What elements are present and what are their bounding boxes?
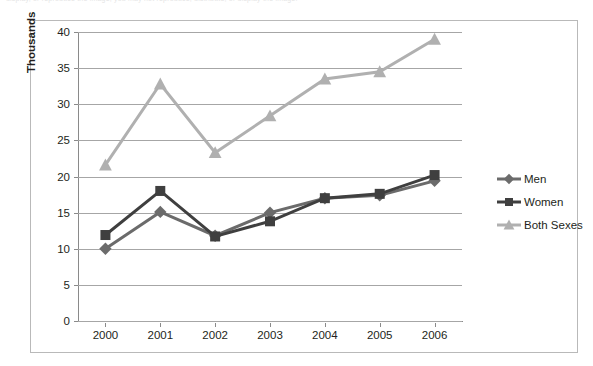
- y-tick-label: 40: [44, 26, 70, 38]
- x-tick-label: 2000: [78, 329, 132, 341]
- diamond-marker-icon: [497, 173, 521, 185]
- legend-item-women[interactable]: Women: [497, 190, 593, 213]
- legend-item-men[interactable]: Men: [497, 167, 593, 190]
- x-tick-label: 2005: [353, 329, 407, 341]
- y-tick-label: 0: [44, 315, 70, 327]
- legend-item-both-sexes[interactable]: Both Sexes: [497, 213, 593, 236]
- y-tick-label: 15: [44, 207, 70, 219]
- y-tick-label: 25: [44, 134, 70, 146]
- x-tick-mark: [105, 323, 106, 327]
- y-tick-label: 10: [44, 243, 70, 255]
- series-both-sexes: [99, 33, 441, 171]
- x-tick-label: 2004: [298, 329, 352, 341]
- legend-label: Both Sexes: [524, 219, 583, 231]
- triangle-marker-icon: [497, 219, 521, 231]
- data-point-marker: [154, 78, 167, 90]
- x-tick-mark: [160, 323, 161, 327]
- x-tick-mark: [270, 323, 271, 327]
- x-tick-label: 2006: [408, 329, 462, 341]
- top-caption-text: display, or reproduce the image; you may…: [6, 0, 586, 7]
- screenshot-page: display, or reproduce the image; you may…: [0, 0, 593, 366]
- x-tick-label: 2002: [188, 329, 242, 341]
- data-point-marker: [504, 173, 514, 183]
- data-point-marker: [430, 170, 440, 180]
- data-point-marker: [265, 216, 275, 226]
- series-women: [100, 170, 439, 241]
- plot-area: [78, 32, 462, 321]
- legend-label: Women: [524, 196, 563, 208]
- gridline: [78, 321, 462, 322]
- y-tick-label: 30: [44, 98, 70, 110]
- data-point-marker: [505, 198, 513, 206]
- y-tick-mark: [74, 321, 78, 322]
- x-tick-mark: [215, 323, 216, 327]
- x-axis-tick-labels: 2000200120022003200420052006: [78, 323, 463, 347]
- x-tick-mark: [325, 323, 326, 327]
- y-tick-label: 5: [44, 279, 70, 291]
- data-point-marker: [210, 231, 220, 241]
- y-tick-label: 20: [44, 171, 70, 183]
- series-men: [99, 175, 441, 255]
- data-point-marker: [100, 230, 110, 240]
- data-point-marker: [320, 193, 330, 203]
- x-tick-mark: [380, 323, 381, 327]
- square-marker-icon: [497, 196, 521, 208]
- y-tick-label: 35: [44, 62, 70, 74]
- chart-legend: MenWomenBoth Sexes: [497, 167, 593, 236]
- x-tick-label: 2001: [133, 329, 187, 341]
- data-point-marker: [375, 189, 385, 199]
- y-axis-tick-labels: 0510152025303540: [40, 32, 70, 321]
- series-line: [105, 175, 434, 236]
- x-tick-label: 2003: [243, 329, 297, 341]
- data-point-marker: [428, 33, 441, 45]
- series-line: [105, 39, 434, 165]
- x-tick-mark: [435, 323, 436, 327]
- chart-frame: Thousands 0510152025303540 2000200120022…: [30, 20, 578, 353]
- series-lines: [78, 32, 462, 321]
- legend-label: Men: [524, 173, 546, 185]
- y-axis-title: Thousands: [25, 12, 37, 73]
- data-point-marker: [155, 186, 165, 196]
